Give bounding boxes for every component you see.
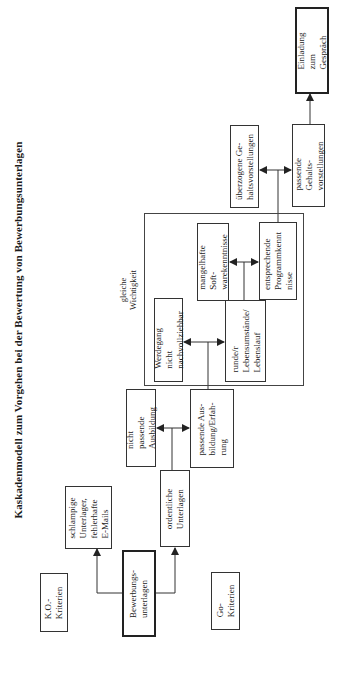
excessive-salary-box: überzogene Ge- haltsvorstellungen [230,125,259,208]
unsuitable-education-label: nicht passende Ausbildung [125,407,158,449]
unsuitable-education-box: nicht passende Ausbildung [126,389,156,467]
career-unclear-label: Werdegang nicht nachvollziehbar [152,311,185,368]
proper-documents-label: ordentliche Unterlagen [164,488,186,528]
poor-software-skills-box: mangelhafte Soft- warekenntnisse [197,223,229,301]
suitable-education-box: passende Aus- bildung/Erfah- rung [190,389,234,468]
interview-invitation-box: Einladung zum Gespräch [295,7,329,94]
interview-invitation-label: Einladung zum Gespräch [296,32,329,69]
application-documents-label: Bewerbungs- unterlagen [128,570,150,618]
excessive-salary-label: überzogene Ge- haltsvorstellungen [234,134,256,200]
suitable-salary-box: passende Gehalts- vorstellungen [292,124,325,207]
ko-criteria-label: K.O.- Kriterien [43,586,65,618]
adequate-program-skills-label: entsprechende Programmkennt nisse [262,232,295,290]
go-criteria-box: Go- Kriterien [211,572,240,630]
ko-criteria-box: K.O.- Kriterien [40,573,68,632]
career-unclear-box: Werdegang nicht nachvollziehbar [154,298,183,382]
go-criteria-label: Go- Kriterien [215,585,237,617]
proper-documents-box: ordentliche Unterlagen [160,470,190,547]
equal-importance-label: gleiche Wichtigkeit [118,270,138,310]
cascade-diagram: Kaskadenmodell zum Vorgehen bei der Bewe… [0,0,341,693]
suitable-salary-label: passende Gehalts- vorstellungen [292,141,325,190]
consistent-cv-label: runde/r Lebensumstände/ Lebenslauf [229,310,262,373]
sloppy-documents-label: schlampige Unterlager, fehlerhafte E-Mai… [67,497,111,538]
application-documents-box: Bewerbungs- unterlagen [122,550,156,637]
poor-software-skills-label: mangelhafte Soft- warekenntnisse [197,234,230,289]
consistent-cv-box: runde/r Lebensumstände/ Lebenslauf [225,300,266,382]
sloppy-documents-box: schlampige Unterlager, fehlerhafte E-Mai… [65,486,112,549]
adequate-program-skills-box: entsprechende Programmkennt nisse [259,222,297,300]
suitable-education-label: passende Aus- bildung/Erfah- rung [196,402,229,455]
